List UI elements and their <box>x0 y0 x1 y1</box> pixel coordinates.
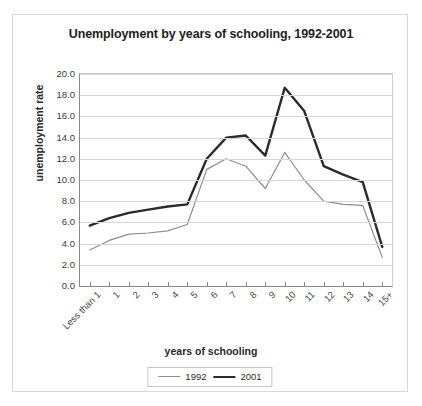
x-axis-tick-label: 6 <box>208 289 220 301</box>
gridline <box>80 116 392 117</box>
gridline <box>80 159 392 160</box>
legend-swatch-2001-icon <box>214 376 236 378</box>
x-axis-tick <box>207 282 208 286</box>
x-axis-tick <box>168 282 169 286</box>
x-axis-tick <box>382 282 383 286</box>
x-axis-tick <box>363 282 364 286</box>
x-axis-tick-label: 11 <box>302 289 317 304</box>
gridline <box>80 265 392 266</box>
x-axis-tick-label: 3 <box>150 289 162 301</box>
legend-item-1992: 1992 <box>158 371 206 382</box>
x-axis-tick <box>187 282 188 286</box>
x-axis-title: years of schooling <box>13 345 409 357</box>
plot-area <box>79 73 393 287</box>
x-axis-tick-label: 1 <box>111 289 123 301</box>
x-axis-tick-label: 15+ <box>376 289 395 308</box>
chart-figure: Unemployment by years of schooling, 1992… <box>12 14 408 392</box>
y-axis-tick-label: 2.0 <box>35 258 75 269</box>
x-axis-tick <box>285 282 286 286</box>
chart-legend: 1992 2001 <box>147 367 272 387</box>
x-axis-tick-label: 13 <box>341 289 356 304</box>
y-axis-tick-label: 6.0 <box>35 216 75 227</box>
x-axis-tick <box>265 282 266 286</box>
x-axis-tick-label: 14 <box>360 289 375 304</box>
x-axis-tick <box>343 282 344 286</box>
x-axis-tick <box>226 282 227 286</box>
x-axis-tick-label: Less than 1 <box>60 289 103 332</box>
gridline <box>80 138 392 139</box>
x-axis-tick <box>109 282 110 286</box>
x-axis-tick <box>90 282 91 286</box>
gridline <box>80 95 392 96</box>
legend-label-1992: 1992 <box>185 371 206 382</box>
x-axis-tick-label: 7 <box>228 289 240 301</box>
x-axis-tick <box>148 282 149 286</box>
x-axis-tick-label: 8 <box>247 289 259 301</box>
x-axis-tick-label: 9 <box>267 289 279 301</box>
gridline <box>80 222 392 223</box>
x-axis-tick-label: 5 <box>189 289 201 301</box>
series-line-1992 <box>90 152 383 257</box>
x-axis-tick-label: 10 <box>282 289 297 304</box>
gridline <box>80 74 392 75</box>
x-axis-tick-label: 12 <box>321 289 336 304</box>
gridline <box>80 244 392 245</box>
legend-item-2001: 2001 <box>214 371 262 382</box>
legend-swatch-1992-icon <box>158 376 180 377</box>
y-axis-tick-label: 0.0 <box>35 280 75 291</box>
y-axis-title: unemployment rate <box>33 63 45 203</box>
x-axis-tick <box>304 282 305 286</box>
gridline <box>80 201 392 202</box>
gridline <box>80 180 392 181</box>
chart-title: Unemployment by years of schooling, 1992… <box>13 27 409 41</box>
y-axis-tick-label: 4.0 <box>35 237 75 248</box>
x-axis-tick-label: 2 <box>130 289 142 301</box>
x-axis-tick-label: 4 <box>169 289 181 301</box>
legend-label-2001: 2001 <box>241 371 262 382</box>
x-axis-tick <box>324 282 325 286</box>
x-axis-tick <box>129 282 130 286</box>
x-axis-tick <box>246 282 247 286</box>
